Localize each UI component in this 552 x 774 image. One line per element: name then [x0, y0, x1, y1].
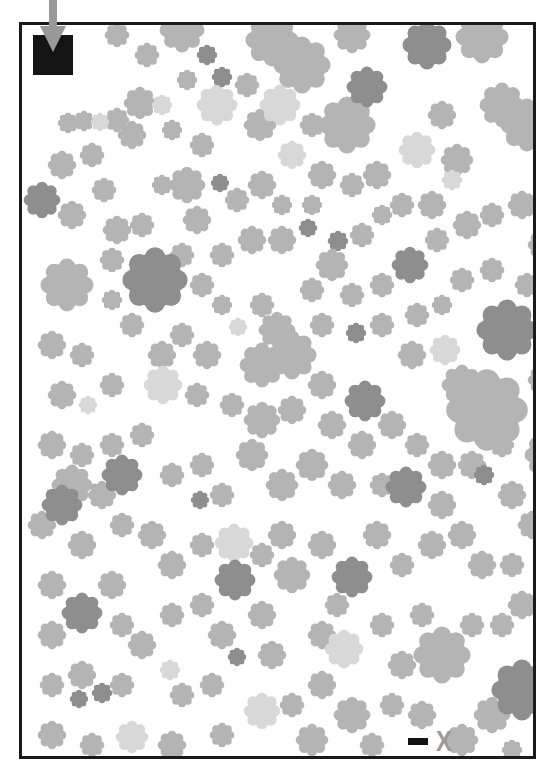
blob	[428, 491, 457, 520]
blob	[197, 45, 217, 65]
blob	[442, 365, 483, 406]
blob	[398, 341, 427, 370]
blob	[508, 191, 533, 220]
blob	[238, 226, 267, 255]
blob	[490, 433, 514, 457]
blob	[308, 371, 337, 400]
blob	[190, 593, 214, 617]
blob	[92, 178, 116, 202]
blob	[453, 211, 482, 240]
blob	[502, 740, 522, 756]
blob	[183, 206, 212, 235]
blob	[162, 120, 182, 140]
blob	[105, 25, 129, 47]
blob	[274, 557, 311, 594]
blob	[340, 173, 364, 197]
blob	[441, 144, 474, 177]
blob	[210, 723, 234, 747]
blob	[160, 660, 180, 680]
blob	[268, 226, 297, 255]
blob	[428, 451, 457, 480]
blob	[193, 341, 222, 370]
blob	[480, 203, 504, 227]
blob	[92, 683, 112, 703]
blob	[378, 411, 407, 440]
blob	[468, 551, 497, 580]
blob	[515, 273, 533, 297]
blob	[372, 205, 392, 225]
blob	[490, 613, 514, 637]
blob	[525, 433, 533, 478]
blob	[318, 411, 347, 440]
blob	[498, 481, 527, 510]
blob	[308, 531, 337, 560]
blob	[40, 258, 93, 311]
blob	[528, 366, 533, 395]
blob	[390, 553, 414, 577]
blob	[278, 141, 307, 170]
blob	[480, 258, 504, 282]
blob	[144, 366, 183, 405]
blob	[302, 195, 322, 215]
blob	[500, 553, 524, 577]
blob	[363, 161, 392, 190]
blob	[135, 43, 159, 67]
blob	[360, 733, 384, 756]
blob	[244, 693, 281, 730]
blob	[68, 531, 97, 560]
blob	[100, 373, 124, 397]
blob	[390, 193, 414, 217]
blob	[158, 551, 187, 580]
blob	[250, 293, 274, 317]
blob	[248, 171, 277, 200]
blob	[160, 603, 184, 627]
blob	[413, 626, 470, 683]
blob	[160, 463, 184, 487]
blob	[268, 521, 297, 550]
blob	[103, 216, 132, 245]
blob	[442, 170, 462, 190]
start-arrow-icon	[36, 0, 70, 56]
blob	[91, 113, 109, 131]
blob	[225, 188, 249, 212]
blob	[460, 613, 484, 637]
blob	[388, 651, 417, 680]
blob	[185, 383, 209, 407]
blob	[212, 295, 232, 315]
blob	[38, 331, 67, 360]
blob	[190, 453, 214, 477]
blob	[68, 661, 97, 690]
blob	[110, 613, 134, 637]
blob	[325, 593, 349, 617]
end-dash	[408, 738, 428, 745]
blob	[130, 423, 154, 447]
blob	[240, 343, 285, 388]
blob	[425, 228, 449, 252]
blob	[100, 433, 124, 457]
blob	[160, 25, 205, 52]
blob	[128, 631, 157, 660]
blob	[228, 648, 246, 666]
blob	[430, 335, 461, 366]
blob	[260, 85, 301, 126]
blob	[508, 591, 533, 620]
blob	[190, 533, 214, 557]
blob	[110, 513, 134, 537]
blob	[235, 73, 259, 97]
blob	[170, 683, 194, 707]
blob	[296, 449, 329, 482]
blob	[211, 174, 229, 192]
blob	[170, 323, 194, 347]
blob	[432, 295, 452, 315]
blob	[236, 439, 269, 472]
blob	[370, 313, 394, 337]
blob	[102, 455, 143, 496]
blob	[244, 402, 281, 439]
blob	[332, 557, 373, 598]
blob	[380, 693, 404, 717]
blob	[210, 483, 234, 507]
maze-board[interactable]	[19, 22, 536, 759]
blob	[266, 469, 299, 502]
blob	[138, 521, 167, 550]
blob	[212, 67, 232, 87]
